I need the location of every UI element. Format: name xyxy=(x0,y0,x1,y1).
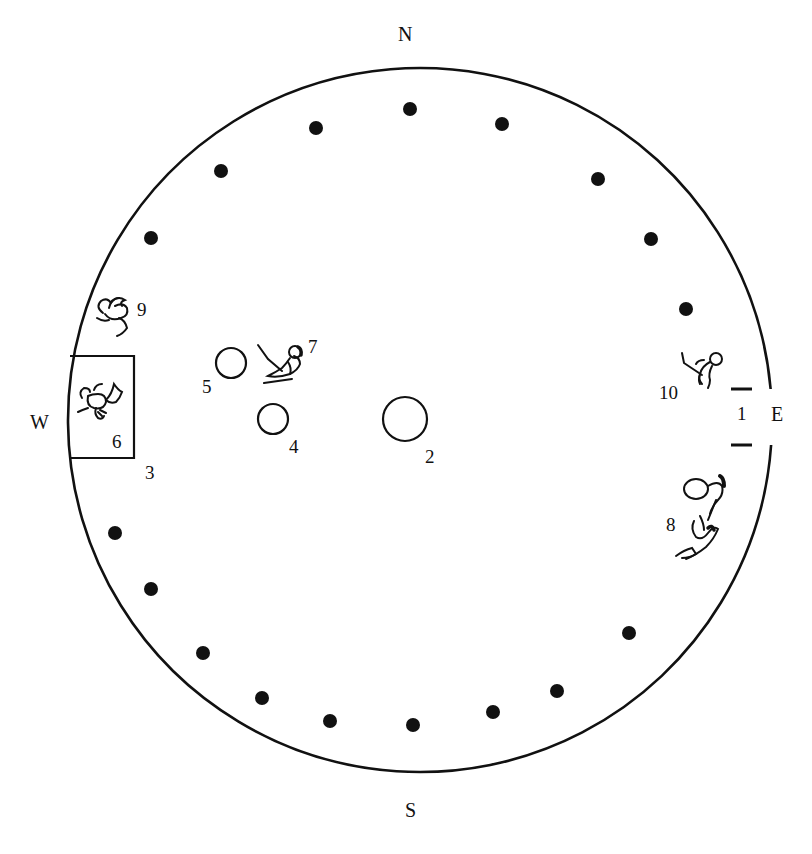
post-hole-icon xyxy=(323,714,337,728)
post-hole-icon xyxy=(108,526,122,540)
figure-6-icon xyxy=(78,384,122,419)
small-hearth-5-icon xyxy=(216,348,246,378)
post-hole-icon xyxy=(144,231,158,245)
feature-4-label: 4 xyxy=(289,437,299,456)
post-hole-icon xyxy=(196,646,210,660)
wall-outline xyxy=(68,68,771,772)
features xyxy=(69,348,427,458)
figure-7-icon xyxy=(258,345,301,383)
direction-north-label: N xyxy=(398,24,412,44)
post-hole-icon xyxy=(309,121,323,135)
small-hearth-4-icon xyxy=(258,404,288,434)
figure-8-icon xyxy=(676,476,724,559)
feature-6-label: 6 xyxy=(112,432,122,451)
feature-9-label: 9 xyxy=(137,300,147,319)
post-hole-icon xyxy=(214,164,228,178)
direction-south-label: S xyxy=(405,800,416,820)
figure-10-icon xyxy=(682,353,722,388)
post-hole-icon xyxy=(550,684,564,698)
post-hole-icon xyxy=(403,102,417,116)
feature-3-label: 3 xyxy=(145,463,155,482)
feature-2-label: 2 xyxy=(425,447,435,466)
post-hole-icon xyxy=(679,302,693,316)
post-hole-icon xyxy=(406,718,420,732)
post-hole-icon xyxy=(591,172,605,186)
post-hole-icon xyxy=(486,705,500,719)
feature-1-label: 1 xyxy=(737,404,747,423)
post-hole-icon xyxy=(144,582,158,596)
direction-east-label: E xyxy=(771,404,783,424)
circular-plan xyxy=(0,0,812,854)
post-hole-icon xyxy=(255,691,269,705)
feature-5-label: 5 xyxy=(202,377,212,396)
post-hole-icon xyxy=(622,626,636,640)
feature-8-label: 8 xyxy=(666,515,676,534)
feature-7-label: 7 xyxy=(308,337,318,356)
post-holes xyxy=(108,102,693,732)
direction-west-label: W xyxy=(30,412,49,432)
feature-10-label: 10 xyxy=(659,383,678,402)
diagram-canvas: N S W E 1 2 3 4 5 6 7 8 9 10 xyxy=(0,0,812,854)
figure-9-icon xyxy=(97,298,127,336)
post-hole-icon xyxy=(644,232,658,246)
post-hole-icon xyxy=(495,117,509,131)
central-hearth-icon xyxy=(383,397,427,441)
